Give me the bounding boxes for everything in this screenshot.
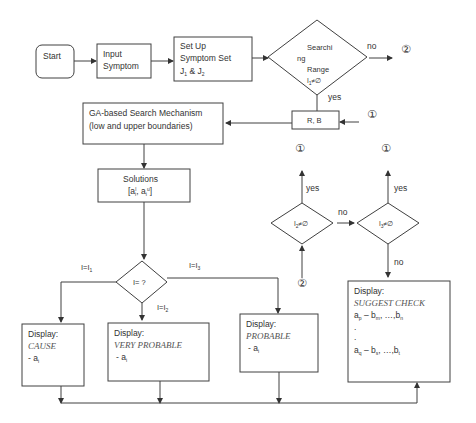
- cause-label: CAUSE: [28, 341, 57, 351]
- input-label-2: Symptom: [103, 61, 139, 71]
- suggest-title: Display:: [354, 286, 384, 296]
- range-yes-label: yes: [328, 92, 341, 102]
- range-label-1: Searchi: [307, 43, 333, 52]
- cause-item: - ai: [28, 353, 39, 364]
- display-very-probable-node: Display: VERY PROBABLE - ai: [108, 323, 209, 381]
- i3-yes-label: yes: [394, 183, 407, 193]
- i-decision: I= ?: [116, 261, 167, 303]
- range-no-label: no: [367, 41, 377, 51]
- branch-i3-label: I=I3: [189, 261, 201, 271]
- setup-label-2: Symptom Set: [180, 53, 232, 63]
- input-label-1: Input: [103, 49, 123, 59]
- flowchart: Start Input Symptom Set Up Symptom Set J…: [0, 0, 476, 423]
- suggest-dot-1: .: [354, 322, 356, 332]
- solutions-label-1: Solutions: [123, 174, 158, 184]
- connector-1-in: ①: [367, 108, 377, 121]
- setup-label-1: Set Up: [180, 41, 206, 51]
- start-node: Start: [36, 45, 74, 78]
- suggest-line-2: aq – bs, …,bt: [354, 345, 401, 356]
- i2-yes-label: yes: [306, 183, 319, 193]
- solutions-node: Solutions [ail, aiu]: [98, 169, 190, 202]
- searching-range-decision: Searchi ng Range I1≠∅: [268, 20, 367, 95]
- display-suggest-check-node: Display: SUGGEST CHECK ap – bm, …,bn . .…: [348, 281, 450, 382]
- range-label-3: Range: [307, 65, 329, 74]
- connector-2-in: ②: [297, 277, 307, 290]
- connector-1-above-i3: ①: [381, 142, 391, 155]
- prob-item: - ai: [248, 343, 259, 354]
- connector-1-above-i2: ①: [295, 142, 305, 155]
- suggest-label: SUGGEST CHECK: [354, 298, 426, 308]
- i-decision-label: I= ?: [133, 278, 146, 287]
- display-probable-node: Display: PROBABLE - ai: [240, 314, 318, 372]
- edge-branch-i3: [167, 278, 278, 313]
- very-title: Display:: [114, 328, 144, 338]
- very-label: VERY PROBABLE: [114, 340, 183, 350]
- rb-label: R, B: [307, 116, 322, 125]
- range-label-2: ng: [297, 54, 305, 63]
- ga-label-2: (low and upper boundaries): [89, 121, 193, 131]
- connector-2-out: ②: [401, 43, 411, 56]
- i2-no-label: no: [338, 207, 348, 217]
- ga-search-node: GA-based Search Mechanism (low and upper…: [83, 103, 223, 144]
- suggest-dot-2: .: [354, 332, 356, 342]
- branch-i1-label: I=I1: [81, 263, 93, 273]
- edge-branch-i1: [61, 282, 116, 322]
- start-label: Start: [43, 51, 62, 61]
- display-cause-node: Display: CAUSE - ai: [22, 324, 84, 386]
- setup-label-3: J1 & J2: [180, 66, 205, 77]
- prob-title: Display:: [246, 319, 276, 329]
- input-symptom-node: Input Symptom: [97, 44, 151, 78]
- branch-i2-label: I=I2: [157, 303, 169, 313]
- i3-decision: I3≠∅: [357, 203, 419, 244]
- cause-title: Display:: [28, 329, 58, 339]
- ga-label-1: GA-based Search Mechanism: [89, 108, 202, 118]
- very-item: - ai: [116, 352, 127, 363]
- prob-label: PROBABLE: [245, 331, 291, 341]
- setup-symptom-set-node: Set Up Symptom Set J1 & J2: [174, 37, 252, 81]
- i2-decision: I2≠∅: [271, 203, 333, 244]
- rb-node: R, B: [292, 111, 339, 129]
- i3-no-label: no: [394, 257, 404, 267]
